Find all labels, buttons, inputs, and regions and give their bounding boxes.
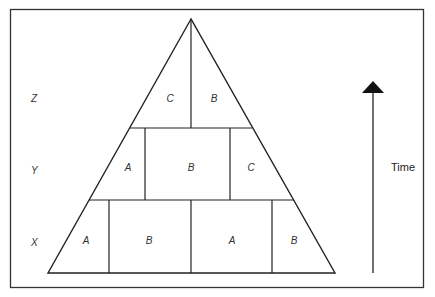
cell-x-1: A: [82, 235, 90, 246]
cell-y-2: B: [188, 162, 195, 173]
pyramid-diagram: Z Y X C B A B C A B A B Time: [0, 0, 435, 297]
cell-z-2: B: [211, 93, 218, 104]
level-label-y: Y: [31, 165, 39, 176]
level-label-x: X: [30, 237, 38, 248]
time-label: Time: [391, 161, 415, 173]
cell-y-3: C: [247, 162, 255, 173]
cell-x-2: B: [146, 235, 153, 246]
cell-x-3: A: [228, 235, 236, 246]
cell-y-1: A: [124, 162, 132, 173]
cell-x-4: B: [291, 235, 298, 246]
diagram-canvas: Z Y X C B A B C A B A B Time: [0, 0, 435, 297]
level-label-z: Z: [30, 93, 38, 104]
frame-border: [11, 10, 424, 288]
cell-z-1: C: [166, 93, 174, 104]
arrow-up-icon: [362, 81, 384, 93]
